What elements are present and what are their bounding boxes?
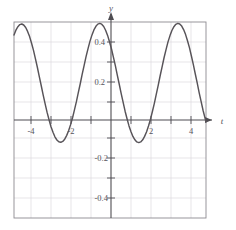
y-axis-label: y [108, 3, 113, 13]
y-tick-label-neg0.4: -0.4 [95, 193, 109, 203]
y-tick-label-0.2: 0.2 [94, 77, 105, 87]
graph-canvas: 0.4 0.2 -0.2 -0.4 -4 -2 2 4 y t [0, 0, 236, 230]
y-tick-label-0.4: 0.4 [94, 37, 105, 47]
y-tick-label-neg0.2: -0.2 [95, 153, 108, 163]
figure-background [0, 0, 236, 230]
x-tick-label-neg2: -2 [67, 126, 74, 136]
x-tick-label-2: 2 [149, 126, 153, 136]
x-tick-label-neg4: -4 [27, 126, 35, 136]
chart-figure: 0.4 0.2 -0.2 -0.4 -4 -2 2 4 y t [0, 0, 236, 230]
